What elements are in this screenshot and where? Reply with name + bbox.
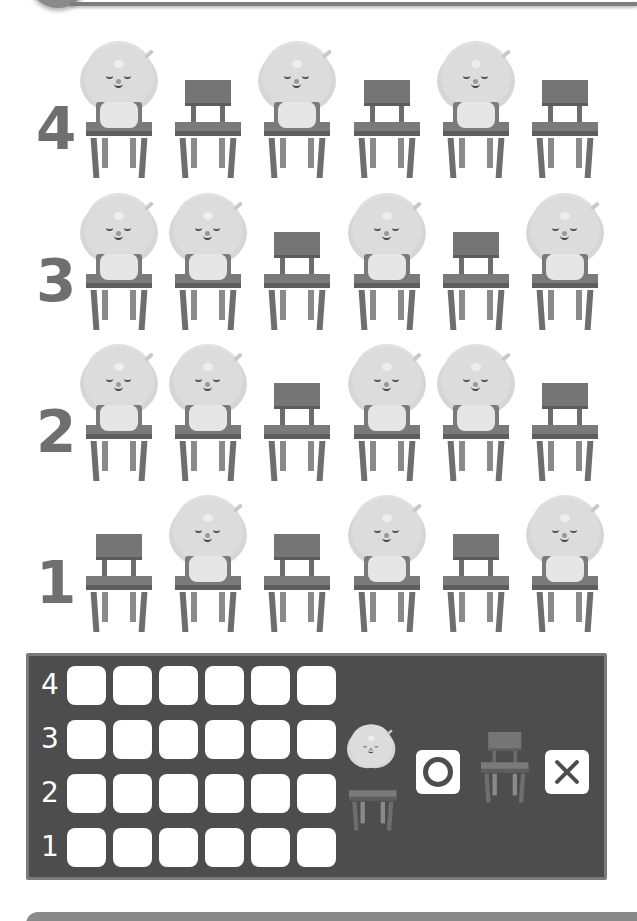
sheep-on-chair [431,343,521,493]
answer-box[interactable] [67,666,106,705]
answer-box[interactable] [67,828,106,867]
circle-mark-icon [423,757,453,787]
x-mark-box [545,750,589,794]
sheep-on-chair [520,192,610,342]
seat-row-2: 2 [30,343,610,493]
sheep-icon [348,196,426,296]
answer-box[interactable] [113,774,152,813]
answer-box[interactable] [159,828,198,867]
grid-row-label: 1 [41,830,65,863]
answer-box[interactable] [297,774,336,813]
empty-chair [342,40,432,190]
answer-box[interactable] [205,666,244,705]
sheep-icon [80,44,158,144]
sheep-icon [437,347,515,447]
sheep-icon [80,196,158,296]
grid-row-label: 3 [41,722,65,755]
chair-icon [264,232,330,332]
chair-icon [175,80,241,180]
answer-box[interactable] [113,666,152,705]
sheep-icon [258,44,336,144]
x-mark-icon [545,750,589,794]
sheep-icon [348,498,426,598]
empty-chair [163,40,253,190]
empty-chair [431,494,521,644]
sheep-on-chair [342,494,432,644]
answer-box[interactable] [159,666,198,705]
answer-box[interactable] [251,774,290,813]
sheep-icon [80,347,158,447]
grid-row-label: 4 [41,668,65,701]
answer-box[interactable] [251,828,290,867]
sheep-on-chair [163,494,253,644]
sheep-on-chair [342,343,432,493]
sheep-icon [169,196,247,296]
sheep-on-chair [342,192,432,342]
sheep-on-chair [163,192,253,342]
answer-box[interactable] [67,720,106,759]
sheep-on-chair [431,40,521,190]
empty-chair [520,40,610,190]
row-number: 2 [36,403,76,461]
chair-icon [354,80,420,180]
chair-icon [443,232,509,332]
sheep-icon [348,347,426,447]
empty-chair [431,192,521,342]
empty-chair [252,192,342,342]
sheep-icon [526,498,604,598]
sheep-icon [169,347,247,447]
sheep-on-chair [74,343,164,493]
answer-box[interactable] [113,720,152,759]
sheep-icon [437,44,515,144]
seat-row-3: 3 [30,192,610,342]
sheep-on-chair [520,494,610,644]
chair-icon [349,760,397,832]
sheep-on-chair [163,343,253,493]
chair-icon [532,383,598,483]
answer-box[interactable] [251,666,290,705]
empty-chair [252,494,342,644]
answer-box[interactable] [251,720,290,759]
empty-chair-icon [477,728,531,818]
grid-row-label: 2 [41,776,65,809]
sheep-icon [526,196,604,296]
sheep-on-chair [74,192,164,342]
answer-box[interactable] [297,720,336,759]
answer-box[interactable] [297,828,336,867]
answer-box[interactable] [159,774,198,813]
circle-mark-box [416,750,460,794]
chair-icon [86,534,152,634]
answer-box[interactable] [205,774,244,813]
header-line [70,2,637,6]
answer-box[interactable] [297,666,336,705]
chair-icon [264,383,330,483]
empty-chair [74,494,164,644]
sheep-on-chair [74,40,164,190]
chair-icon [481,732,529,804]
answer-box[interactable] [205,828,244,867]
sheep-on-chair-icon [347,726,401,816]
answer-box[interactable] [113,828,152,867]
row-number: 4 [36,100,76,158]
empty-chair [252,343,342,493]
answer-panel: 4321 [26,653,607,880]
seat-row-1: 1 [30,494,610,644]
row-number: 3 [36,252,76,310]
sheep-on-chair [252,40,342,190]
chair-icon [532,80,598,180]
answer-box[interactable] [159,720,198,759]
chair-icon [443,534,509,634]
answer-box[interactable] [205,720,244,759]
chair-icon [264,534,330,634]
answer-box[interactable] [67,774,106,813]
empty-chair [520,343,610,493]
footer-bar [26,912,637,921]
seat-row-4: 4 [30,40,610,190]
header-bar [0,0,637,8]
sheep-icon [169,498,247,598]
row-number: 1 [36,554,76,612]
